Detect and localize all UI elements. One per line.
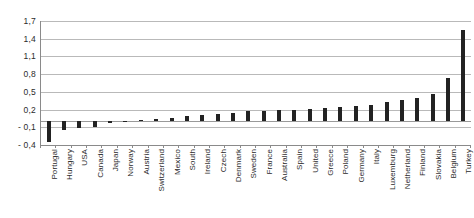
bar[interactable] bbox=[216, 114, 220, 122]
bar-slot bbox=[102, 21, 117, 145]
category-label: Ireland bbox=[204, 149, 212, 174]
category-label: Japan bbox=[112, 149, 120, 171]
bar[interactable] bbox=[431, 94, 435, 122]
category-label: Belgium bbox=[450, 149, 458, 179]
category-label-text: Canada bbox=[97, 149, 105, 178]
bar[interactable] bbox=[170, 118, 174, 122]
bar-slot bbox=[333, 21, 348, 145]
bar[interactable] bbox=[323, 108, 327, 121]
category-label: Canada bbox=[97, 149, 105, 178]
x-axis-tick bbox=[71, 145, 72, 148]
bar-slot bbox=[302, 21, 317, 145]
bar-slot bbox=[241, 21, 256, 145]
x-axis-tick bbox=[424, 145, 425, 148]
x-axis-tick bbox=[163, 145, 164, 148]
bar[interactable] bbox=[185, 116, 189, 121]
x-axis-tick bbox=[86, 145, 87, 148]
category-label: Finland bbox=[419, 149, 427, 176]
bar[interactable] bbox=[308, 109, 312, 121]
bar[interactable] bbox=[354, 106, 358, 121]
bar[interactable] bbox=[231, 113, 235, 122]
bar-chart: 1,71,41,10,80,50,2- 0,1- 0,4 PortugalHun… bbox=[0, 0, 474, 218]
category-label: Turkey bbox=[465, 149, 473, 174]
bar[interactable] bbox=[139, 120, 143, 122]
bar-slot bbox=[440, 21, 455, 145]
bar-slot bbox=[195, 21, 210, 145]
bar-slot bbox=[41, 21, 56, 145]
bar[interactable] bbox=[369, 105, 373, 122]
category-label: Portugal bbox=[51, 149, 59, 180]
x-axis-tick bbox=[117, 145, 118, 148]
bar[interactable] bbox=[62, 121, 66, 130]
category-label-text: Netherland bbox=[404, 149, 412, 189]
category-label-text: Mexico bbox=[174, 149, 182, 175]
category-label-text: Belgium bbox=[450, 149, 458, 179]
x-axis-category-labels: PortugalHungaryUSACanadaJapanNorwayAustr… bbox=[40, 149, 470, 218]
x-axis-tick bbox=[40, 145, 41, 148]
bar-slot bbox=[72, 21, 87, 145]
y-axis-tick-label: 1,4 bbox=[24, 34, 36, 44]
x-axis-tick bbox=[378, 145, 379, 148]
bar[interactable] bbox=[292, 110, 296, 122]
bar-slot bbox=[364, 21, 379, 145]
bar[interactable] bbox=[385, 102, 389, 121]
category-label-text: Italy bbox=[373, 149, 381, 164]
bar[interactable] bbox=[446, 78, 450, 121]
x-axis-tick bbox=[455, 145, 456, 148]
category-label: Denmark bbox=[235, 149, 243, 182]
category-label: Norway bbox=[127, 149, 135, 177]
bar-slot bbox=[179, 21, 194, 145]
bar[interactable] bbox=[461, 30, 465, 122]
category-label-text: Japan bbox=[112, 149, 120, 171]
bar-slot bbox=[256, 21, 271, 145]
y-axis-tick-label: 0,8 bbox=[24, 69, 36, 79]
category-label: Switzerland bbox=[158, 149, 166, 191]
bar[interactable] bbox=[338, 107, 342, 121]
category-label: France bbox=[266, 149, 274, 175]
bar-slot bbox=[210, 21, 225, 145]
category-label-text: South bbox=[189, 149, 197, 170]
category-label-text: USA bbox=[81, 149, 89, 166]
bar-slot bbox=[317, 21, 332, 145]
category-label-text: Finland bbox=[419, 149, 427, 176]
bar[interactable] bbox=[108, 121, 112, 122]
category-label-text: Sweden bbox=[250, 149, 258, 179]
bar[interactable] bbox=[200, 115, 204, 121]
bar-slot bbox=[164, 21, 179, 145]
x-axis-tick bbox=[286, 145, 287, 148]
bar[interactable] bbox=[47, 121, 51, 142]
y-axis-tick-label: 0,5 bbox=[24, 87, 36, 97]
category-label: Spain bbox=[296, 149, 304, 170]
bar[interactable] bbox=[246, 111, 250, 121]
bar[interactable] bbox=[123, 121, 127, 122]
y-axis-tick-label: - 0,1 bbox=[18, 122, 36, 132]
x-axis-tick bbox=[148, 145, 149, 148]
bar[interactable] bbox=[93, 121, 97, 127]
x-axis-tick bbox=[178, 145, 179, 148]
y-axis-tick-label: - 0,4 bbox=[18, 140, 36, 150]
y-axis-tick-label: 1,1 bbox=[24, 51, 36, 61]
category-label: Sweden bbox=[250, 149, 258, 179]
x-axis-tick bbox=[101, 145, 102, 148]
bar[interactable] bbox=[77, 121, 81, 127]
plot-area bbox=[40, 21, 471, 145]
bar-slot bbox=[425, 21, 440, 145]
bar[interactable] bbox=[277, 110, 281, 121]
category-label-text: Norway bbox=[127, 149, 135, 177]
x-axis-tick bbox=[316, 145, 317, 148]
bars-layer bbox=[41, 21, 471, 145]
bar-slot bbox=[118, 21, 133, 145]
bar[interactable] bbox=[415, 98, 419, 122]
category-label-text: United bbox=[312, 149, 320, 173]
x-axis-tick bbox=[255, 145, 256, 148]
category-label-text: France bbox=[266, 149, 274, 175]
category-label: Netherland bbox=[404, 149, 412, 189]
bar[interactable] bbox=[154, 119, 158, 121]
bar-slot bbox=[225, 21, 240, 145]
bar-slot bbox=[287, 21, 302, 145]
category-label: South bbox=[189, 149, 197, 170]
category-label-text: Luxemburg bbox=[389, 149, 397, 190]
bar[interactable] bbox=[400, 100, 404, 121]
bar[interactable] bbox=[262, 111, 266, 122]
y-axis-tick-label: 0,2 bbox=[24, 105, 36, 115]
